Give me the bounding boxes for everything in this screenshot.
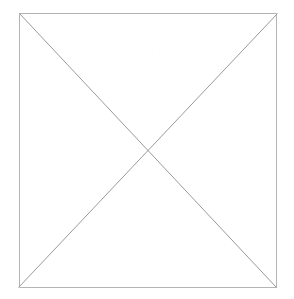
diagonal-top-right-to-bottom-left	[19, 14, 278, 288]
square-with-diagonals-figure: Square with both diagonals A thin light-…	[0, 0, 294, 299]
figure-canvas: Square with both diagonals A thin light-…	[0, 0, 294, 299]
